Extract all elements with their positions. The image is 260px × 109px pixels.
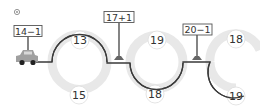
sign-17-plus-1: 17+1: [104, 12, 134, 23]
number-circle-18-bottom[interactable]: 18: [146, 85, 164, 103]
circle-number: 18: [229, 33, 243, 46]
number-circle-19-top[interactable]: 19: [148, 31, 166, 49]
car-icon: [16, 50, 38, 65]
sign-text: 14−1: [15, 26, 41, 37]
number-circle-18-top[interactable]: 18: [227, 30, 245, 48]
sign-text: 17+1: [106, 12, 132, 23]
number-circle-13[interactable]: 13: [71, 31, 89, 49]
circled-number-icon: [14, 9, 19, 14]
road-puzzle-scene: 14−1 17+1 20−1 13 19 18 15 18 19: [0, 0, 260, 109]
circle-number: 15: [72, 89, 86, 102]
circle-number: 19: [150, 34, 164, 47]
number-circle-15[interactable]: 15: [70, 86, 88, 104]
sign-20-minus-1: 20−1: [183, 24, 212, 35]
sign-14-minus-1: 14−1: [14, 26, 42, 37]
circle-number: 13: [73, 34, 87, 47]
sign-text: 20−1: [184, 24, 210, 35]
